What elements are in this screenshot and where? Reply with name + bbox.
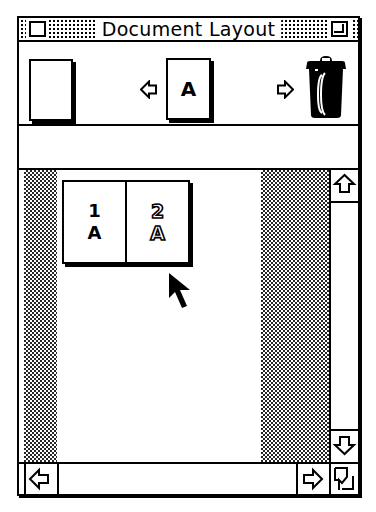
right-arrow-icon[interactable] bbox=[276, 80, 294, 99]
pasteboard-left bbox=[24, 170, 57, 462]
page-number: 1 bbox=[88, 200, 101, 222]
page-master: A bbox=[150, 222, 165, 244]
scroll-down-button[interactable] bbox=[331, 429, 358, 462]
master-page-a-icon[interactable]: A bbox=[166, 58, 211, 120]
close-box-icon[interactable] bbox=[29, 21, 46, 37]
master-page-label: A bbox=[181, 77, 196, 101]
info-strip bbox=[19, 126, 358, 170]
right-arrow-icon bbox=[298, 464, 327, 494]
page-number: 2 bbox=[151, 200, 164, 222]
scroll-right-button[interactable] bbox=[296, 464, 329, 494]
vertical-scrollbar[interactable] bbox=[329, 170, 358, 462]
toolbar: A bbox=[19, 42, 358, 126]
zoom-box-icon[interactable] bbox=[331, 21, 348, 37]
document-layout-window: Document Layout A bbox=[17, 16, 360, 496]
page-master: A bbox=[88, 222, 102, 244]
left-arrow-icon bbox=[26, 464, 53, 494]
page-icon-1[interactable]: 1 A bbox=[64, 182, 125, 262]
trash-icon[interactable] bbox=[304, 55, 348, 119]
size-box[interactable] bbox=[329, 462, 358, 494]
pasteboard-right bbox=[261, 170, 331, 462]
down-arrow-icon bbox=[331, 431, 358, 460]
page-icon-2-selected[interactable]: 2 A bbox=[125, 182, 188, 262]
scroll-up-button[interactable] bbox=[331, 170, 358, 203]
title-bar[interactable]: Document Layout bbox=[19, 18, 358, 42]
horizontal-scrollbar[interactable] bbox=[19, 462, 329, 494]
resize-icon bbox=[331, 464, 358, 494]
layout-view[interactable]: 1 A 2 A bbox=[19, 170, 329, 462]
arrow-cursor-icon bbox=[168, 272, 194, 312]
up-arrow-icon bbox=[331, 170, 358, 199]
blank-page-icon[interactable] bbox=[29, 59, 73, 121]
page-spread[interactable]: 1 A 2 A bbox=[62, 180, 190, 264]
window-title: Document Layout bbox=[96, 18, 282, 40]
scroll-left-button[interactable] bbox=[24, 464, 59, 494]
left-arrow-icon[interactable] bbox=[140, 80, 158, 99]
